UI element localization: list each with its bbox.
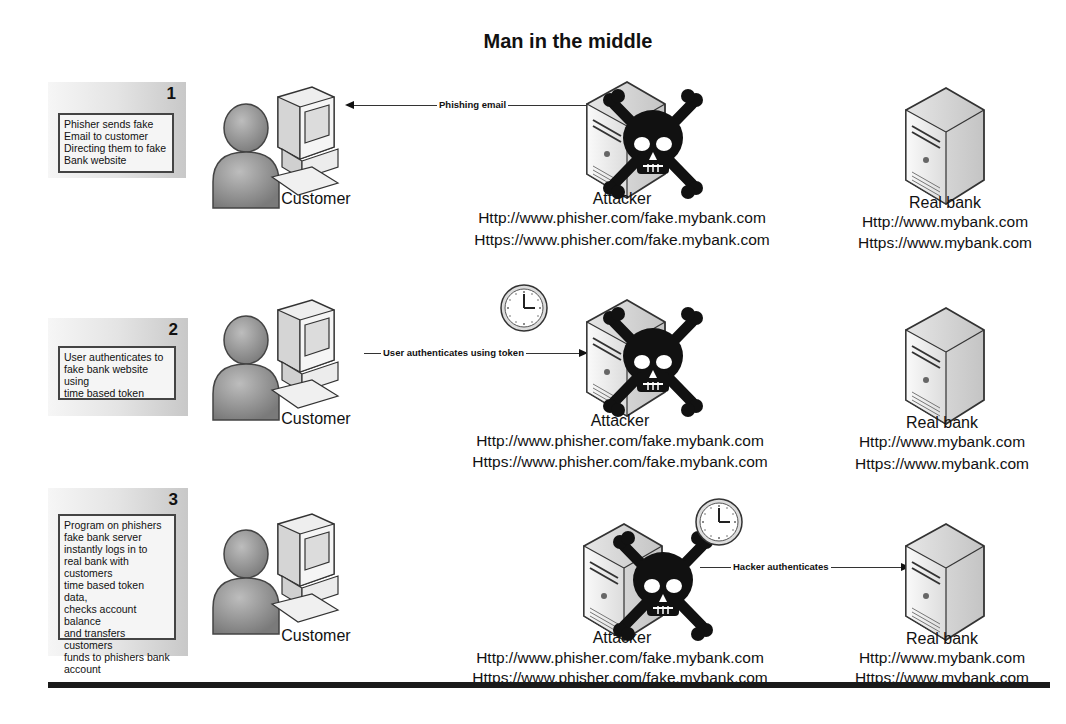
attacker-https-url: Https://www.phisher.com/fake.mybank.com	[440, 452, 800, 472]
real-bank-label: Real bank	[885, 194, 1005, 212]
skull-crossbones-icon	[604, 310, 704, 416]
customer-label: Customer	[266, 410, 366, 428]
attacker-http-url: Http://www.phisher.com/fake.mybank.com	[442, 208, 802, 228]
real-bank-server-icon	[906, 308, 986, 426]
step-description: Program on phishers fake bank server ins…	[58, 514, 176, 640]
skull-crossbones-icon	[614, 534, 714, 640]
real-bank-label: Real bank	[882, 630, 1002, 648]
attacker-label: Attacker	[572, 629, 672, 647]
step-number: 2	[169, 320, 178, 340]
user-authenticates-label: User authenticates using token	[381, 347, 526, 358]
attacker-label: Attacker	[572, 190, 672, 208]
skull-crossbones-icon	[604, 92, 704, 198]
attacker-http-url: Http://www.phisher.com/fake.mybank.com	[440, 648, 800, 668]
step-panel-1: 1 Phisher sends fake Email to customer D…	[48, 82, 186, 178]
real-bank-http-url: Http://www.mybank.com	[842, 432, 1042, 452]
attacker-https-url: Https://www.phisher.com/fake.mybank.com	[442, 230, 802, 250]
arrow-left-icon	[345, 100, 355, 110]
customer-label: Customer	[266, 627, 366, 645]
customer-label: Customer	[266, 190, 366, 208]
step-description: User authenticates to fake bank website …	[58, 346, 176, 400]
step-number: 3	[169, 490, 178, 510]
real-bank-http-url: Http://www.mybank.com	[842, 648, 1042, 668]
step-number: 1	[167, 84, 176, 104]
real-bank-http-url: Http://www.mybank.com	[845, 212, 1045, 232]
clock-icon	[500, 284, 550, 334]
attacker-label: Attacker	[570, 412, 670, 430]
phishing-email-label: Phishing email	[437, 99, 508, 110]
real-bank-label: Real bank	[882, 414, 1002, 432]
step-panel-2: 2 User authenticates to fake bank websit…	[48, 318, 188, 416]
clock-icon	[695, 498, 745, 548]
step-panel-3: 3 Program on phishers fake bank server i…	[48, 488, 188, 656]
diagram-title: Man in the middle	[0, 30, 1066, 53]
attacker-http-url: Http://www.phisher.com/fake.mybank.com	[440, 431, 800, 451]
real-bank-server-icon	[906, 88, 986, 206]
step-description: Phisher sends fake Email to customer Dir…	[58, 113, 174, 173]
computer-icon	[272, 514, 342, 624]
real-bank-server-icon	[906, 524, 986, 642]
hacker-authenticates-label: Hacker authenticates	[731, 561, 831, 572]
computer-icon	[272, 300, 342, 410]
computer-icon	[272, 87, 342, 197]
real-bank-https-url: Https://www.mybank.com	[842, 454, 1042, 474]
bottom-divider	[48, 682, 1050, 688]
real-bank-https-url: Https://www.mybank.com	[845, 233, 1045, 253]
